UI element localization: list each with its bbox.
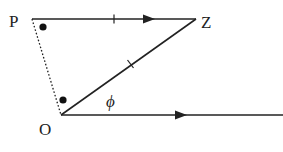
label-z: Z xyxy=(201,13,211,32)
label-p: P xyxy=(9,12,18,31)
arrowhead-axis-icon xyxy=(175,111,187,120)
vector-diagram: P Z O ϕ xyxy=(0,0,283,152)
right-angle-dot-o-icon xyxy=(59,96,66,103)
label-phi: ϕ xyxy=(106,92,115,111)
segment-po-dotted xyxy=(32,19,61,115)
segment-oz xyxy=(61,19,196,115)
right-angle-dot-p-icon xyxy=(39,23,46,30)
label-o: O xyxy=(39,120,51,139)
arrowhead-pz-icon xyxy=(143,15,155,24)
